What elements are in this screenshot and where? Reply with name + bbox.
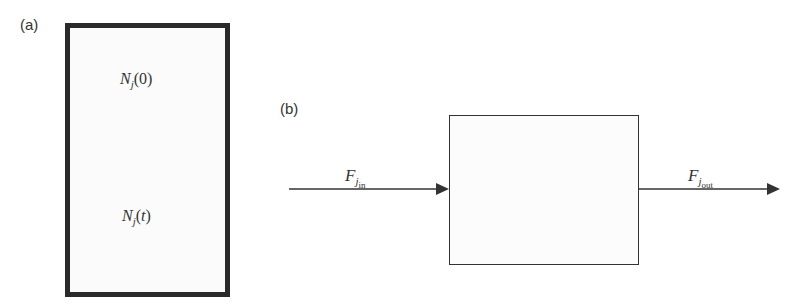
outflow-arrowhead-icon [767, 183, 780, 195]
flow-arrows [0, 0, 811, 308]
outflow-label: Fjout [688, 166, 713, 190]
inflow-label: Fjin [345, 166, 365, 190]
inflow-arrowhead-icon [436, 183, 449, 195]
